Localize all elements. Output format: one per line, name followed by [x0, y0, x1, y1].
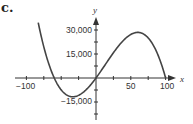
- y-axis-arrow-icon: [93, 17, 99, 25]
- y-tick-label-neg15000: −15,000: [61, 96, 92, 106]
- x-tick-label-neg100: −100: [16, 81, 35, 91]
- curve-line: [38, 23, 165, 97]
- y-axis-label: y: [92, 5, 97, 15]
- y-tick-label-30000: 30,000: [66, 25, 92, 35]
- y-tick-label-15000: 15,000: [66, 49, 92, 59]
- x-tick-label-50: 50: [126, 81, 136, 91]
- x-tick-label-100: 100: [160, 81, 174, 91]
- x-axis-label: x: [179, 74, 184, 84]
- chart: −100 50 100 30,000 15,000 −15,000 x y: [0, 0, 193, 124]
